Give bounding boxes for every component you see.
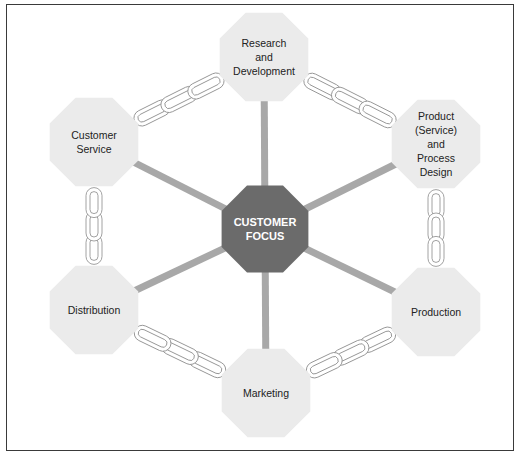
center-label: CUSTOMER FOCUS	[218, 182, 312, 276]
chain-icon	[301, 70, 399, 130]
chain-icon	[86, 188, 102, 265]
node-label-product: Product (Service) and Process Design	[388, 96, 484, 192]
node-label-production: Production	[388, 264, 484, 360]
node-label-marketing: Marketing	[218, 345, 314, 441]
node-label-rnd: Research and Development	[216, 9, 312, 105]
chain-icon	[428, 190, 444, 267]
chain-icon	[132, 323, 229, 381]
node-label-distribution: Distribution	[46, 262, 142, 358]
node-label-customer-service: Customer Service	[46, 94, 142, 190]
chain-icon	[304, 324, 399, 380]
chain-icon	[131, 70, 227, 129]
